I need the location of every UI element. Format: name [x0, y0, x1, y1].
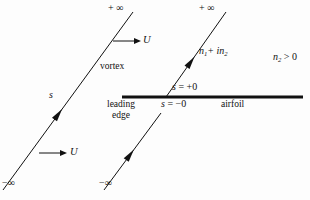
label-infinity-top-right: + ∞ — [199, 3, 214, 13]
label-velocity-lower: U — [70, 147, 78, 158]
label-leading-edge: leading edge — [99, 99, 143, 120]
label-infinity-top-left: + ∞ — [108, 3, 123, 13]
vortex-right-upper-arrowhead — [184, 57, 194, 69]
label-velocity-upper: U — [143, 35, 151, 46]
vortex-right-lower-arrowhead — [124, 150, 134, 162]
velocity-arrow-upper — [113, 38, 141, 44]
label-leading-edge-line1: leading — [99, 99, 143, 110]
label-arclength-s: s — [49, 90, 53, 100]
label-leading-edge-line2: edge — [99, 110, 143, 121]
label-s-plus-zero: s = +0 — [172, 82, 197, 92]
velocity-arrow-lower — [39, 150, 67, 156]
label-airfoil: airfoil — [221, 100, 244, 110]
label-normal-complex-sub2: 2 — [224, 50, 227, 57]
label-vortex: vortex — [100, 62, 124, 72]
label-infinity-bottom-left: −∞ — [2, 178, 15, 188]
vortex-left-arrowhead — [52, 109, 62, 121]
label-normal-complex-mid: + i — [207, 45, 219, 56]
label-s-minus-rest: = −0 — [165, 98, 186, 109]
label-normal-complex: n1+ in2 — [199, 46, 228, 57]
label-normal-condition-rel: > 0 — [281, 51, 297, 62]
diagram-canvas — [0, 0, 310, 200]
label-s-minus-zero: s = −0 — [161, 99, 186, 109]
label-infinity-bottom-right: −∞ — [99, 178, 112, 188]
label-normal-condition: n2 > 0 — [273, 52, 297, 63]
label-s-plus-rest: = +0 — [176, 81, 197, 92]
vortex-airfoil-diagram: + ∞ + ∞ −∞ −∞ U U vortex s n1+ in2 n2 > … — [0, 0, 310, 200]
